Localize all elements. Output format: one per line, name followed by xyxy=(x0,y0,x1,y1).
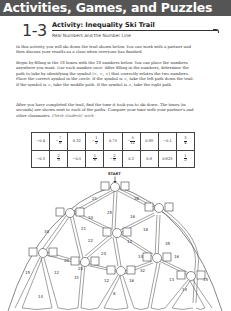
lesson-title: Activity: Inequality Ski Trail xyxy=(52,21,155,29)
time-label: 20 xyxy=(64,258,70,263)
fraction-value: 34 xyxy=(184,137,187,145)
time-label: 34 xyxy=(44,229,50,234)
denominator: 12 xyxy=(130,142,135,146)
decimal-value: 0.625 xyxy=(162,157,172,161)
answer-note: Check students' work. xyxy=(52,113,95,118)
number-cell: −512 xyxy=(122,133,140,151)
number-cell: 0.75 xyxy=(104,133,122,151)
number-cell: −0.3 xyxy=(32,150,50,168)
denominator: 5 xyxy=(113,159,116,163)
number-cell: 12 xyxy=(176,150,194,168)
number-cell: 0.6 xyxy=(140,150,158,168)
time-label: 31 xyxy=(74,275,80,280)
time-label: 14 xyxy=(38,294,44,299)
time-label: 24 xyxy=(101,251,107,256)
decimal-value: −0.1 xyxy=(163,139,172,143)
time-label: 13 xyxy=(169,277,175,282)
title-rule xyxy=(52,30,217,31)
number-table: −0.4−780.32−120.75−5120.89−0.134−0.323−0… xyxy=(31,132,195,168)
decimal-value: 0.2 xyxy=(128,157,134,161)
title-rule-tail xyxy=(213,29,219,33)
number-cell: 23 xyxy=(50,150,68,168)
instructions-timing-text: After you have completed the trail, find… xyxy=(16,102,194,118)
time-label: 16 xyxy=(130,214,136,219)
denominator: 8 xyxy=(59,142,62,146)
instructions-intro: In this activity, you will ski down the … xyxy=(16,44,196,55)
time-label: 18 xyxy=(143,227,149,232)
time-label: 16 xyxy=(174,254,180,259)
decimal-value: −0.4 xyxy=(36,139,45,143)
fraction-value: 512 xyxy=(130,137,135,145)
number-cell: 16 xyxy=(86,150,104,168)
lesson-number: 1-3 xyxy=(22,21,47,40)
denominator: 2 xyxy=(184,159,187,163)
time-label: 22 xyxy=(88,238,94,243)
time-label: 38 xyxy=(134,196,140,201)
fraction-value: 23 xyxy=(57,155,60,163)
time-label: 25 xyxy=(107,210,113,215)
time-label: 8 xyxy=(113,291,116,296)
time-label: 13 xyxy=(127,239,133,244)
number-row: −0.4−780.32−120.75−5120.89−0.134 xyxy=(32,133,195,151)
time-label: 14 xyxy=(182,287,188,292)
number-cell: 0.2 xyxy=(122,150,140,168)
number-cell: 34 xyxy=(176,133,194,151)
number-cell: −0.4 xyxy=(32,133,50,151)
number-cell: 0.32 xyxy=(68,133,86,151)
number-cell: −78 xyxy=(50,133,68,151)
fraction-value: 25 xyxy=(113,155,116,163)
time-labels: 21 25 38 10 34 21 16 18 35 22 13 20 24 1… xyxy=(25,196,209,299)
time-label: 32 xyxy=(140,268,146,273)
number-cell: 0.625 xyxy=(158,150,176,168)
time-label: 12 xyxy=(54,270,60,275)
decimal-value: 0.6 xyxy=(146,157,152,161)
ski-trail-diagram: START 21 25 38 10 34 21 16 18 35 22 13 xyxy=(0,168,231,311)
denominator: 3 xyxy=(57,159,60,163)
fraction-value: 12 xyxy=(95,137,98,145)
number-cell: −0.1 xyxy=(158,133,176,151)
instructions-timing: After you have completed the trail, find… xyxy=(16,102,196,118)
time-label: 20 xyxy=(78,266,84,271)
decimal-value: 0.89 xyxy=(145,139,153,143)
time-label: 21 xyxy=(92,196,98,201)
time-label: 35 xyxy=(165,241,171,246)
decimal-value: 0.75 xyxy=(109,139,117,143)
fraction-value: 16 xyxy=(93,155,96,163)
time-label: 15 xyxy=(203,277,209,282)
number-cell: 0.89 xyxy=(140,133,158,151)
lesson-subtitle: Real Numbers and the Number Line xyxy=(52,33,131,38)
number-cell: −12 xyxy=(86,133,104,151)
decimal-value: −0.5 xyxy=(72,157,81,161)
decimal-value: −0.3 xyxy=(36,157,45,161)
fraction-value: 78 xyxy=(59,137,62,145)
time-label: 21 xyxy=(81,226,87,231)
fraction-value: 12 xyxy=(184,155,187,163)
time-label: 15 xyxy=(25,270,31,275)
instructions-rules: Begin by filling in the 18 boxes with th… xyxy=(16,60,196,87)
start-label: START xyxy=(108,172,121,176)
time-label: 14 xyxy=(138,254,144,259)
decimal-value: 0.32 xyxy=(73,139,81,143)
time-label: 16 xyxy=(129,278,135,283)
section-banner: Activities, Games, and Puzzles xyxy=(0,0,231,16)
number-row: −0.323−0.516−250.20.60.62512 xyxy=(32,150,195,168)
number-cell: −25 xyxy=(104,150,122,168)
trail-endings xyxy=(22,308,205,310)
denominator: 2 xyxy=(95,142,98,146)
denominator: 4 xyxy=(184,142,187,146)
time-label: 12 xyxy=(104,278,110,283)
denominator: 6 xyxy=(93,159,96,163)
number-cell: −0.5 xyxy=(68,150,86,168)
time-label: 10 xyxy=(88,215,94,220)
